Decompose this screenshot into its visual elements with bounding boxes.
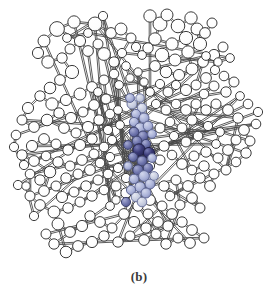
atom-sphere (166, 38, 178, 50)
atom-sphere (73, 169, 83, 179)
atom-sphere (191, 80, 201, 90)
atom-sphere (98, 48, 111, 61)
atom-sphere (169, 131, 178, 140)
highlight-atom-sphere (148, 130, 157, 139)
atom-sphere (241, 148, 251, 158)
atom-sphere (99, 75, 109, 85)
atom-sphere (25, 191, 35, 201)
atom-sphere (161, 105, 171, 115)
atom-sphere (186, 63, 198, 75)
atom-sphere (94, 115, 104, 125)
atom-sphere (71, 128, 81, 138)
atom-layer (9, 9, 262, 258)
atom-sphere (109, 69, 119, 79)
atom-sphere (85, 165, 96, 176)
highlight-atom-sphere (150, 172, 159, 181)
atom-sphere (11, 130, 21, 140)
atom-sphere (35, 91, 45, 101)
atom-sphere (107, 223, 117, 233)
atom-sphere (76, 220, 87, 231)
atom-sphere (199, 89, 209, 99)
atom-sphere (199, 233, 209, 243)
atom-sphere (126, 74, 134, 82)
atom-sphere (41, 229, 51, 239)
atom-sphere (239, 125, 250, 136)
atom-sphere (229, 77, 239, 87)
atom-sphere (201, 73, 212, 84)
atom-sphere (74, 139, 85, 150)
atom-sphere (56, 191, 67, 202)
atom-sphere (29, 156, 40, 167)
atom-sphere (231, 157, 241, 167)
atom-sphere (107, 135, 116, 144)
atom-sphere (99, 231, 109, 241)
atom-sphere (221, 87, 231, 97)
atom-sphere (179, 31, 192, 44)
atom-sphere (69, 187, 79, 197)
atom-sphere (17, 115, 27, 125)
atom-sphere (207, 18, 217, 28)
atom-sphere (223, 145, 234, 156)
atom-sphere (51, 181, 61, 191)
atom-sphere (115, 23, 127, 35)
atom-sphere (187, 165, 197, 175)
atom-sphere (245, 136, 255, 146)
highlight-atom-sphere (126, 94, 135, 103)
atom-sphere (151, 229, 161, 239)
atom-sphere (39, 186, 50, 197)
atom-sphere (173, 69, 184, 80)
atom-sphere (74, 35, 85, 46)
atom-sphere (187, 193, 198, 204)
highlight-atom-sphere (148, 154, 157, 163)
atom-sphere (19, 160, 28, 169)
atom-sphere (22, 182, 30, 190)
atom-sphere (122, 62, 131, 71)
atom-sphere (55, 75, 66, 86)
atom-sphere (177, 159, 188, 170)
atom-sphere (159, 181, 169, 191)
atom-sphere (203, 121, 212, 130)
atom-sphere (105, 152, 114, 161)
atom-sphere (65, 227, 76, 238)
atom-sphere (223, 105, 234, 116)
atom-sphere (9, 142, 18, 151)
atom-sphere (199, 161, 209, 171)
atom-sphere (134, 68, 142, 76)
atom-sphere (42, 56, 54, 68)
atom-sphere (150, 61, 161, 72)
atom-sphere (193, 131, 203, 141)
figure-caption: (b) (0, 262, 278, 299)
atom-sphere (44, 166, 56, 178)
atom-sphere (32, 47, 43, 58)
atom-sphere (213, 153, 223, 163)
atom-sphere (195, 203, 205, 213)
atom-sphere (26, 140, 37, 151)
atom-sphere (155, 123, 165, 133)
atom-sphere (68, 16, 80, 28)
atom-sphere (157, 201, 167, 211)
atom-sphere (60, 94, 71, 105)
atom-sphere (185, 238, 196, 249)
atom-sphere (119, 209, 130, 220)
atom-sphere (84, 29, 93, 38)
atom-sphere (77, 155, 88, 166)
atom-sphere (93, 39, 103, 49)
atom-sphere (35, 200, 46, 211)
atom-sphere (65, 44, 75, 54)
atom-sphere (85, 211, 95, 221)
highlight-atom-sphere (137, 197, 147, 207)
atom-sphere (54, 108, 64, 118)
atom-sphere (185, 12, 197, 24)
atom-sphere (165, 117, 175, 127)
atom-sphere (200, 28, 211, 39)
atom-sphere (209, 169, 219, 179)
atom-sphere (140, 78, 148, 86)
atom-sphere (155, 79, 164, 88)
atom-sphere (202, 52, 211, 61)
atom-sphere (89, 149, 99, 159)
atom-sphere (201, 147, 211, 157)
atom-sphere (180, 84, 191, 95)
atom-sphere (39, 134, 50, 145)
atom-sphere (195, 173, 205, 183)
atom-sphere (93, 175, 103, 185)
